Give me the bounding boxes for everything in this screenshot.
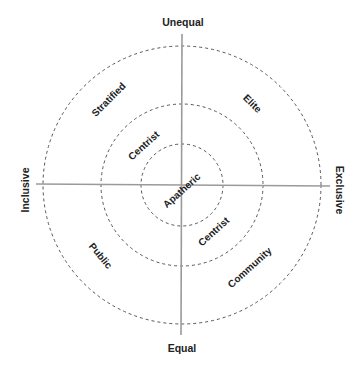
- axis-label-bottom: Equal: [168, 342, 197, 354]
- axis-label-top: Unequal: [162, 16, 204, 28]
- zone-label-centrist-upper: Centrist: [126, 128, 162, 162]
- axis-label-right: Exclusive: [334, 166, 346, 215]
- zone-label-stratified: Stratified: [89, 80, 127, 118]
- zone-label-elite: Elite: [241, 92, 264, 115]
- quadrant-diagram: Unequal Equal Inclusive Exclusive Strati…: [0, 0, 364, 365]
- zone-label-centrist-lower: Centrist: [196, 214, 232, 248]
- zone-label-public: Public: [87, 241, 115, 271]
- axis-label-left: Inclusive: [19, 167, 31, 212]
- zone-label-community: Community: [226, 245, 275, 290]
